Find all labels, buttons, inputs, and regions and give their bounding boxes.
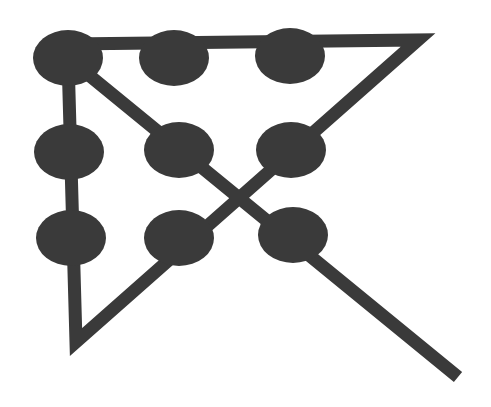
dot-r1-c1 (33, 30, 103, 86)
dot-r3-c2 (144, 210, 214, 266)
dot-r1-c2 (139, 30, 209, 86)
dot-r2-c1 (34, 124, 104, 180)
nine-dot-diagram (0, 0, 491, 407)
dot-r2-c3 (256, 122, 326, 178)
dot-r3-c3 (258, 207, 328, 263)
dot-r2-c2 (144, 122, 214, 178)
dot-grid (33, 28, 328, 266)
dot-r3-c1 (36, 210, 106, 266)
dot-r1-c3 (255, 28, 325, 84)
